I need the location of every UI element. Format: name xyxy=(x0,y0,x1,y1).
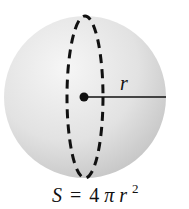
formula-pi: π xyxy=(104,184,115,206)
center-point xyxy=(80,93,89,102)
radius-label: r xyxy=(120,72,128,94)
formula-equals: = xyxy=(70,184,81,206)
formula-variable: r xyxy=(119,184,127,206)
formula-exponent: 2 xyxy=(132,181,139,196)
surface-area-formula: S = 4 π r 2 xyxy=(52,181,139,206)
formula-coefficient: 4 xyxy=(89,184,99,206)
formula-lhs: S xyxy=(52,184,62,206)
sphere-diagram: r S = 4 π r 2 xyxy=(0,0,189,209)
